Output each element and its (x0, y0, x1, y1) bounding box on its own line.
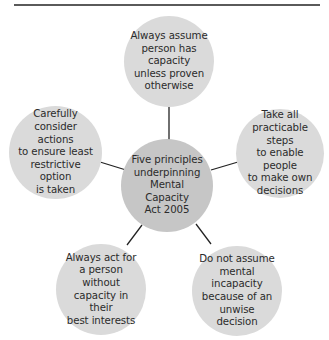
principle-label-bottom-right: Do not assume mental incapacity because … (198, 253, 276, 329)
principle-node-top: Always assume person has capacity unless… (124, 16, 214, 107)
center-label: Five principles underpinning Mental Capa… (127, 154, 207, 217)
principle-node-right: Take all practicable steps to enable peo… (236, 109, 324, 198)
principle-node-left: Carefully consider actions to ensure lea… (9, 106, 102, 199)
principle-label-top: Always assume person has capacity unless… (130, 30, 208, 93)
principle-node-bottom-left: Always act for a person without capacity… (56, 244, 146, 335)
connector-bottom-left (127, 225, 142, 245)
connector-left (100, 162, 126, 170)
principle-node-bottom-right: Do not assume mental incapacity because … (192, 246, 282, 336)
connector-right (211, 162, 238, 170)
principle-label-bottom-left: Always act for a person without capacity… (62, 252, 140, 328)
principle-label-right: Take all practicable steps to enable peo… (242, 109, 318, 197)
principle-label-left: Carefully consider actions to ensure lea… (15, 108, 96, 196)
connector-bottom-right (196, 224, 211, 244)
center-node: Five principles underpinning Mental Capa… (121, 139, 213, 232)
